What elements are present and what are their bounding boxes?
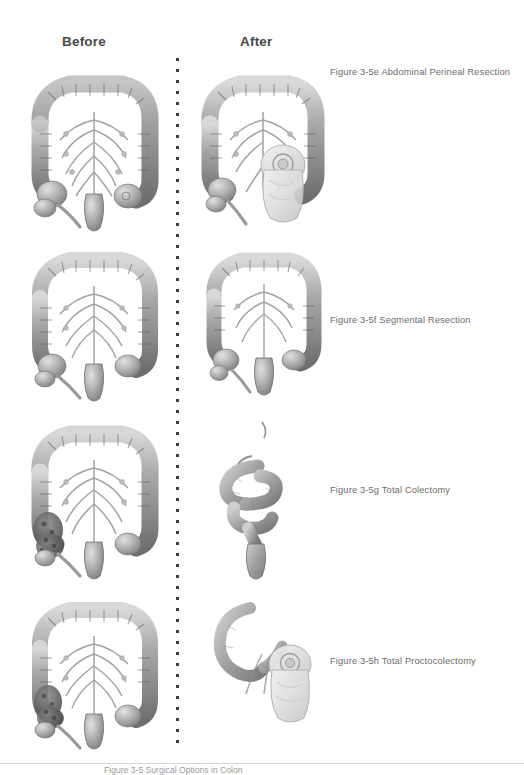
figure-row	[0, 590, 524, 750]
small-bowel-loops	[226, 466, 276, 544]
small-bowel-to-rectum-illustration	[190, 412, 336, 582]
column-header-after: After	[240, 34, 273, 49]
footer-caption-text: Figure 3-5 Surgical Options in Colon	[104, 766, 424, 775]
figure-caption: Figure 3-5g Total Colectomy	[330, 484, 516, 497]
colon-diseased-illustration	[18, 412, 170, 582]
footer-divider-rule	[0, 763, 524, 764]
column-header-before: Before	[62, 34, 106, 49]
divider-dot	[176, 586, 179, 589]
figure-caption: Figure 3-5e Abdominal Perineal Resection	[330, 66, 516, 79]
colon-intact-illustration	[18, 240, 170, 400]
illustration-before	[18, 590, 170, 750]
footer-clipped-caption: Figure 3-5 Surgical Options in Colon	[104, 766, 424, 775]
colon-intact-illustration	[18, 62, 170, 232]
illustration-after	[190, 590, 336, 750]
figure-row	[0, 412, 524, 582]
figure-caption: Figure 3-5f Segmental Resection	[330, 314, 516, 327]
illustration-before	[18, 62, 170, 232]
illustration-after	[190, 412, 336, 582]
divider-dot	[176, 234, 179, 237]
divider-dot	[176, 58, 179, 61]
figure-plate: Before After	[0, 0, 524, 775]
illustration-after	[190, 240, 336, 400]
ostomy-bag	[261, 145, 305, 222]
rectal-stump	[246, 544, 265, 579]
illustration-before	[18, 412, 170, 582]
figure-row	[0, 62, 524, 232]
figure-caption: Figure 3-5h Total Proctocolectomy	[330, 655, 516, 668]
illustration-before	[18, 240, 170, 400]
ileostomy-with-bag-illustration	[190, 590, 336, 750]
colon-diseased-illustration	[18, 590, 170, 750]
colon-shortened-anastomosis-illustration	[190, 240, 336, 400]
illustration-after	[190, 62, 336, 232]
ostomy-bag	[269, 645, 311, 722]
colon-with-colostomy-bag-illustration	[190, 62, 336, 232]
